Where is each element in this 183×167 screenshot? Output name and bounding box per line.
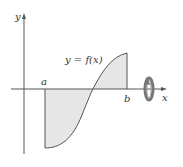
shaded-region	[45, 53, 127, 148]
bound-label-a: a	[41, 76, 47, 87]
x-axis-label: x	[162, 92, 168, 103]
y-axis-arrow-icon	[22, 13, 26, 19]
y-axis-label: y	[14, 11, 21, 22]
x-axis-arrow-icon	[161, 87, 167, 91]
curve-label: y = f(x)	[64, 54, 103, 65]
solid-of-revolution-diagram: y x y = f(x) a b	[0, 0, 183, 167]
bound-label-b: b	[124, 93, 130, 104]
